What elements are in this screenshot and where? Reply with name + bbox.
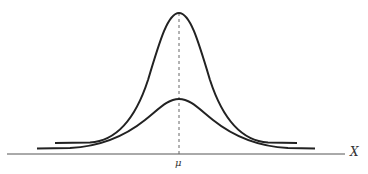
axis-label: X xyxy=(350,145,359,159)
narrow-curve xyxy=(55,13,297,143)
mean-label: μ xyxy=(175,157,182,168)
wide-curve xyxy=(37,99,315,149)
normal-curves-diagram xyxy=(0,0,368,174)
